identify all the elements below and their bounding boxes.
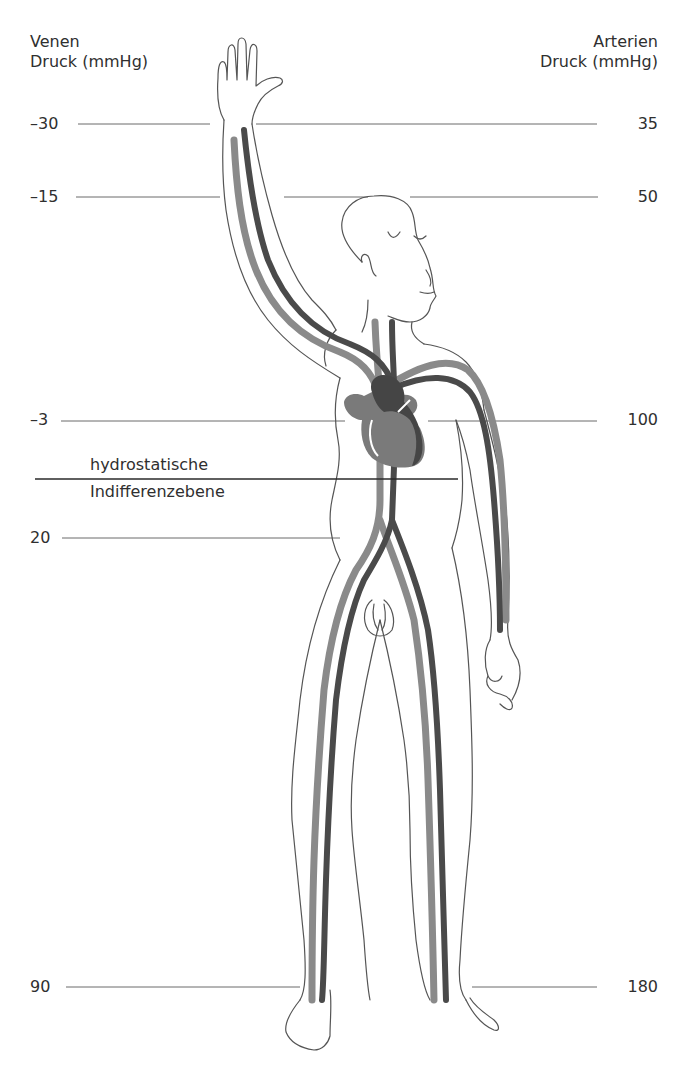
vein-left-leg	[380, 520, 434, 1000]
circulation-figure	[0, 0, 681, 1067]
heart-icon	[344, 375, 425, 468]
arteries	[244, 130, 500, 1000]
indifference-plane-label-line1: hydrostatische	[90, 454, 208, 475]
vein-raised-arm	[234, 140, 378, 392]
indifference-plane-label-line2: Indifferenzebene	[90, 481, 225, 502]
artery-raised-arm	[244, 130, 394, 388]
artery-left-leg	[392, 520, 446, 1000]
